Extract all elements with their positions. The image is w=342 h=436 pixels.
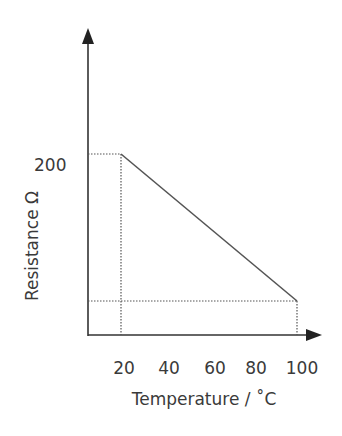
y-tick-200: 200 (34, 155, 66, 175)
x-tick-20: 20 (113, 358, 135, 378)
x-tick-60: 60 (204, 358, 226, 378)
chart: 200 Resistance Ω 20 40 60 80 100 Tempera… (0, 0, 342, 436)
x-tick-100: 100 (286, 358, 318, 378)
x-tick-80: 80 (245, 358, 267, 378)
data-line (121, 154, 297, 301)
y-axis-arrow-icon (82, 28, 94, 44)
x-axis-label: Temperature / ˚C (131, 389, 277, 409)
y-axis-label: Resistance Ω (22, 191, 42, 301)
x-axis-arrow-icon (306, 329, 322, 341)
x-tick-40: 40 (158, 358, 180, 378)
